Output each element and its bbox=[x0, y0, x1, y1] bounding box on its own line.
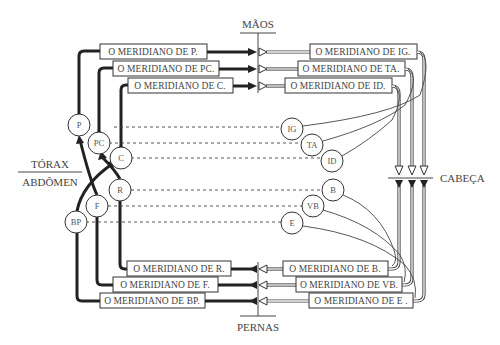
meridian-label: O MERIDIANO DE P. bbox=[108, 47, 197, 57]
meridian-label: O MERIDIANO DE BP. bbox=[104, 296, 200, 306]
node-bp: BP bbox=[65, 211, 87, 233]
meridian-label: O MERIDIANO DE B. bbox=[289, 264, 380, 274]
svg-text:E: E bbox=[289, 218, 294, 228]
node-ig: IG bbox=[281, 118, 303, 140]
node-ta: TA bbox=[301, 134, 323, 156]
label-pernas: PERNAS bbox=[237, 321, 279, 333]
meridian-label: O MERIDIANO DE IG. bbox=[315, 47, 410, 57]
svg-text:TA: TA bbox=[307, 140, 319, 150]
svg-text:ID: ID bbox=[328, 156, 337, 166]
meridian-label: O MERIDIANO DE VB. bbox=[300, 280, 398, 290]
svg-text:IG: IG bbox=[288, 124, 297, 134]
svg-text:B: B bbox=[330, 185, 336, 195]
meridian-box-pc: O MERIDIANO DE PC. bbox=[113, 61, 219, 76]
maos-divider bbox=[240, 33, 276, 93]
label-cabeca: CABEÇA bbox=[440, 172, 485, 184]
node-r: R bbox=[109, 179, 131, 201]
meridian-label: O MERIDIANO DE TA. bbox=[303, 64, 400, 74]
svg-text:C: C bbox=[118, 153, 124, 163]
node-pc: PC bbox=[88, 132, 110, 154]
label-torax: TÓRAX bbox=[31, 158, 69, 170]
svg-text:VB: VB bbox=[307, 201, 319, 211]
meridian-box-vb: O MERIDIANO DE VB. bbox=[296, 277, 402, 292]
meridian-box-r: O MERIDIANO DE R. bbox=[127, 261, 231, 276]
svg-text:P: P bbox=[77, 120, 82, 130]
meridian-box-ta: O MERIDIANO DE TA. bbox=[298, 61, 405, 76]
meridian-box-p: O MERIDIANO DE P. bbox=[100, 44, 207, 59]
svg-text:BP: BP bbox=[71, 217, 82, 227]
node-p: P bbox=[68, 114, 90, 136]
label-maos: MÃOS bbox=[242, 18, 274, 30]
svg-text:PC: PC bbox=[94, 138, 105, 148]
meridian-box-bp: O MERIDIANO DE BP. bbox=[100, 293, 205, 308]
label-abdomen: ABDÔMEN bbox=[22, 176, 78, 188]
node-b: B bbox=[322, 179, 344, 201]
meridian-label: O MERIDIANO DE C. bbox=[134, 81, 225, 91]
meridian-label: O MERIDIANO DE E . bbox=[314, 296, 407, 306]
node-id: ID bbox=[321, 150, 343, 172]
meridian-box-f: O MERIDIANO DE F. bbox=[113, 277, 218, 292]
left-connectors bbox=[75, 51, 128, 301]
node-f: F bbox=[86, 195, 108, 217]
meridian-box-ig: O MERIDIANO DE IG. bbox=[310, 44, 417, 59]
meridian-box-c: O MERIDIANO DE C. bbox=[128, 78, 233, 93]
meridian-flow-diagram: O MERIDIANO DE P. O MERIDIANO DE PC. O M… bbox=[0, 0, 500, 345]
node-e: E bbox=[281, 212, 303, 234]
node-c: C bbox=[110, 147, 132, 169]
meridian-box-b: O MERIDIANO DE B. bbox=[283, 261, 388, 276]
meridian-box-id: O MERIDIANO DE ID. bbox=[285, 78, 392, 93]
meridian-label: O MERIDIANO DE ID. bbox=[290, 81, 385, 91]
node-vb: VB bbox=[302, 195, 324, 217]
meridian-box-e: O MERIDIANO DE E . bbox=[309, 293, 413, 308]
meridian-label: O MERIDIANO DE PC. bbox=[118, 64, 215, 74]
svg-text:F: F bbox=[95, 201, 100, 211]
meridian-label: O MERIDIANO DE F. bbox=[120, 280, 210, 290]
svg-text:R: R bbox=[117, 185, 123, 195]
meridian-label: O MERIDIANO DE R. bbox=[133, 264, 224, 274]
